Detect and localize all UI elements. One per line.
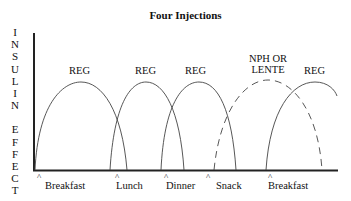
meal-breakfast-2: Breakfast	[268, 180, 308, 191]
curve-reg-4	[266, 82, 337, 170]
curve-label-nph-lente: NPH OR LENTE	[248, 53, 288, 75]
meal-dinner: Dinner	[166, 180, 195, 191]
curve-label-reg-1: REG	[69, 65, 90, 76]
curve-label-lente: LENTE	[248, 64, 288, 75]
curve-label-reg-4: REG	[304, 65, 325, 76]
meal-snack: Snack	[216, 180, 242, 191]
curve-reg-1	[35, 82, 127, 170]
curve-label-reg-2: REG	[135, 65, 156, 76]
meal-lunch: Lunch	[116, 180, 143, 191]
meal-breakfast: Breakfast	[45, 180, 85, 191]
chart-plot	[0, 0, 351, 201]
curve-reg-3	[161, 82, 236, 170]
tick-breakfast: ^	[37, 172, 41, 182]
tick-snack: ^	[206, 172, 210, 182]
curve-label-reg-3: REG	[185, 65, 206, 76]
curve-label-nph: NPH OR	[248, 53, 288, 64]
curve-reg-2	[110, 82, 184, 170]
